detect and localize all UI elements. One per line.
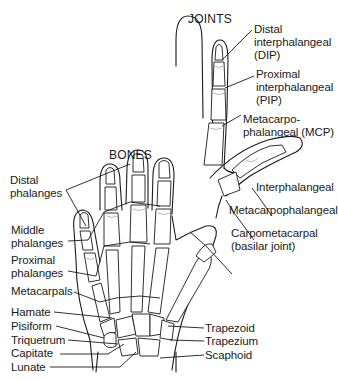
label-trapezium: Trapezium [205,335,258,348]
label-cmc-joint: Carpometacarpal (basilar joint) [231,227,318,253]
label-distal-phalanges: Distal phalanges [10,174,62,200]
label-proximal-phalanges: Proximal phalanges [11,254,63,280]
label-thumb-ip-joint: Interphalangeal [256,181,334,194]
label-scaphoid: Scaphoid [205,349,252,362]
label-lunate: Lunate [11,361,46,374]
joints-heading: JOINTS [188,12,232,26]
label-mcp-joint: Metacarpo- phalangeal (MCP) [243,113,334,139]
label-capitate: Capitate [11,347,53,360]
label-thumb-mcp-joint: Metacarpophalangeal [229,204,338,217]
label-dip-joint: Distal interphalangeal (DIP) [254,23,331,62]
label-trapezoid: Trapezoid [205,322,255,335]
palm-hand [74,150,217,372]
label-pip-joint: Proximal interphalangeal (PIP) [256,68,333,107]
label-hamate: Hamate [11,306,51,319]
bones-heading: BONES [109,148,152,162]
label-middle-phalanges: Middle phalanges [11,224,63,250]
label-pisiform: Pisiform [11,320,52,333]
label-metacarpals: Metacarpals [11,285,73,298]
label-triquetrum: Triquetrum [11,334,65,347]
pointing-finger [176,16,252,173]
